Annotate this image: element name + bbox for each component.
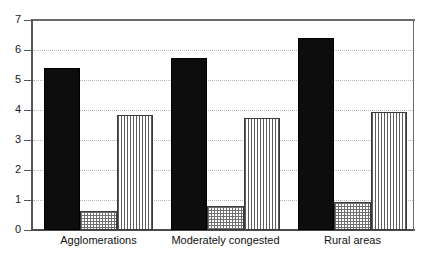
y-axis-tick-label: 3 [0, 134, 21, 145]
y-axis-tick [24, 200, 32, 201]
y-axis-tick [24, 170, 32, 171]
y-axis-tick [24, 80, 32, 81]
bar [80, 211, 117, 231]
bar [298, 38, 335, 230]
bar [171, 58, 208, 230]
y-axis-tick [24, 20, 32, 21]
y-axis-tick [24, 110, 32, 111]
bar [117, 115, 154, 231]
bar-chart: 01234567 AgglomerationsModerately conges… [0, 0, 440, 268]
y-axis-tick-label: 5 [0, 74, 21, 85]
y-axis-tick [24, 50, 32, 51]
axis-right [413, 19, 414, 231]
y-axis-tick-label: 1 [0, 194, 21, 205]
bar [244, 118, 281, 230]
bar [207, 206, 244, 230]
y-axis-tick-label: 7 [0, 14, 21, 25]
bars-layer [32, 20, 413, 230]
y-axis-tick-label: 4 [0, 104, 21, 115]
y-axis-tick-label: 6 [0, 44, 21, 55]
y-axis-tick-label: 2 [0, 164, 21, 175]
y-axis-tick [24, 140, 32, 141]
bar [371, 112, 408, 230]
bar [44, 68, 81, 230]
x-axis-label: Rural areas [263, 234, 440, 246]
y-axis-tick [24, 230, 32, 231]
bar [334, 202, 371, 230]
